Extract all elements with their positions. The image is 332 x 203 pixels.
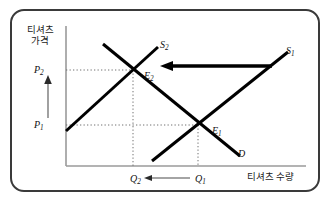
curve-label-s1: S1 — [286, 45, 295, 56]
diagram-screenshot: 티셔츠 가격 티셔츠 수량 P2 P1 Q2 Q1 E2 E1 S2 S1 D — [0, 0, 332, 203]
curve-label-s2: S2 — [160, 39, 169, 50]
y-axis-title: 티셔츠 가격 — [27, 24, 53, 46]
price-rise-arrow — [44, 75, 52, 118]
supply-curve-s2 — [66, 47, 158, 131]
equilibrium-label-e1: E1 — [212, 125, 222, 136]
x-axis-title: 티셔츠 수량 — [247, 171, 293, 182]
quantity-tick-q1: Q1 — [195, 173, 206, 184]
price-tick-p2: P2 — [34, 64, 44, 75]
quantity-tick-q2: Q2 — [130, 173, 141, 184]
supply-shift-arrow — [160, 61, 272, 71]
quantity-fall-arrow — [144, 175, 190, 181]
equilibrium-label-e2: E2 — [144, 70, 154, 81]
price-tick-p1: P1 — [34, 119, 44, 130]
curve-label-d: D — [238, 148, 245, 159]
demand-curve — [103, 44, 240, 156]
